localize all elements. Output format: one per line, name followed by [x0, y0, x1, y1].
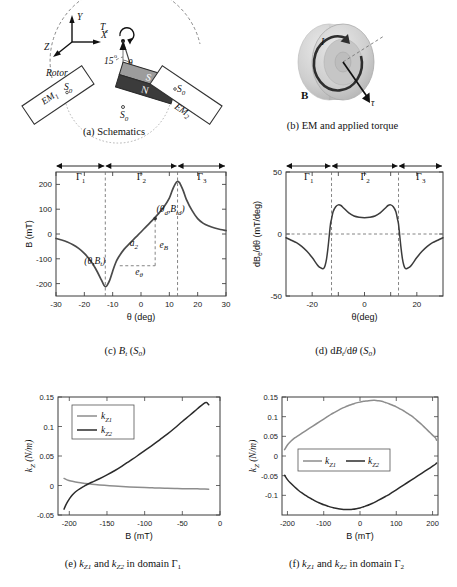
svg-text:0: 0	[50, 482, 54, 491]
svg-text:-150: -150	[99, 519, 114, 528]
svg-text:B (mT): B (mT)	[24, 220, 34, 248]
svg-text:-50: -50	[177, 519, 188, 528]
svg-text:0: 0	[362, 300, 367, 309]
svg-text:-100: -100	[36, 255, 53, 264]
svg-text:Γ2: Γ2	[137, 171, 147, 185]
svg-text:0.05: 0.05	[263, 432, 278, 441]
svg-text:-100: -100	[137, 519, 152, 528]
panel-f-chart: -200-1000100200-0.1-0.0500.050.10.15B (m…	[238, 375, 453, 550]
svg-text:0.15: 0.15	[39, 393, 54, 402]
svg-text:kZ (N/m): kZ (N/m)	[24, 440, 37, 473]
svg-text:-50: -50	[270, 292, 282, 301]
svg-text:B (mT): B (mT)	[125, 531, 153, 541]
svg-text:0: 0	[278, 230, 283, 239]
svg-text:50: 50	[273, 168, 282, 177]
svg-text:20: 20	[412, 300, 421, 309]
svg-text:0.05: 0.05	[39, 452, 54, 461]
svg-text:0: 0	[218, 519, 222, 528]
panel-e-chart: -200-150-100-500-0.0500.050.10.15B (mT)k…	[14, 375, 236, 550]
sensor-bottom-label: S0	[120, 110, 129, 123]
svg-text:-20: -20	[79, 300, 91, 309]
caption-d: (d) dBt/dθ (S0)	[238, 345, 453, 358]
svg-text:-0.1: -0.1	[265, 491, 278, 500]
svg-text:100: 100	[390, 519, 403, 528]
field-label: B	[301, 89, 309, 101]
caption-f: (f) kZ1 and kZ2 in domain Γ2	[236, 558, 457, 571]
svg-text:eB: eB	[159, 240, 168, 253]
svg-text:-200: -200	[62, 519, 77, 528]
svg-text:kZ (N/m): kZ (N/m)	[248, 440, 261, 473]
angle-15-label: 15	[104, 56, 114, 66]
svg-text:0: 0	[274, 452, 278, 461]
svg-text:0.1: 0.1	[44, 423, 54, 432]
svg-text:Γ3: Γ3	[416, 171, 426, 185]
svg-text:200: 200	[426, 519, 439, 528]
svg-text:θ(deg): θ(deg)	[351, 312, 377, 322]
svg-text:-20: -20	[306, 300, 318, 309]
rotor-label: Rotor	[45, 68, 68, 78]
svg-text:0: 0	[358, 519, 362, 528]
svg-text:Γ2: Γ2	[360, 171, 370, 185]
svg-text:10: 10	[165, 300, 174, 309]
torque-label: τ	[371, 98, 375, 108]
caption-c: (c) Bt (S0)	[14, 345, 236, 358]
svg-text:-10: -10	[107, 300, 119, 309]
degree-symbol: o	[114, 53, 117, 59]
svg-text:-200: -200	[280, 519, 295, 528]
panel-a-schematics: Y X Z Tz 15 o θ S N EM1 EM2 Rotor S0 S0 …	[0, 0, 228, 135]
svg-text:-0.05: -0.05	[261, 472, 278, 481]
panel-d-chart: -20020-50050Γ1Γ2Γ3θ(deg)dBe/dθ (mT/deg)	[238, 150, 453, 330]
svg-text:200: 200	[39, 180, 53, 189]
svg-text:(θd,Btd): (θd,Btd)	[157, 204, 185, 217]
axis-label-y: Y	[77, 12, 84, 22]
svg-text:dBe/dθ (mT/deg): dBe/dθ (mT/deg)	[252, 201, 263, 267]
svg-text:-30: -30	[50, 300, 62, 309]
svg-text:20: 20	[193, 300, 202, 309]
svg-text:-200: -200	[36, 280, 53, 289]
caption-b: (b) EM and applied torque	[228, 120, 457, 131]
panel-b-em-torque: I τ B	[228, 0, 457, 135]
svg-text:eθ: eθ	[135, 267, 143, 280]
svg-text:0: 0	[139, 300, 144, 309]
caption-a: (a) Schematics	[0, 126, 228, 137]
svg-text:100: 100	[39, 205, 53, 214]
svg-text:0: 0	[48, 230, 53, 239]
svg-text:0.1: 0.1	[268, 413, 278, 422]
panel-c-chart: -30-20-100102030-200-1000100200Γ1Γ2Γ3(θ,…	[14, 150, 236, 330]
svg-text:Γ3: Γ3	[197, 171, 207, 185]
svg-text:B (mT): B (mT)	[346, 531, 374, 541]
svg-text:a2: a2	[130, 238, 139, 251]
caption-e: (e) kZ1 and kZ2 in domain Γ1	[10, 558, 236, 571]
angle-arc-15	[116, 57, 123, 60]
svg-text:θ (deg): θ (deg)	[127, 312, 156, 322]
svg-text:-0.05: -0.05	[37, 511, 54, 520]
svg-text:-100: -100	[316, 519, 331, 528]
axis-label-z: Z	[44, 42, 50, 52]
svg-text:30: 30	[222, 300, 231, 309]
svg-text:0.15: 0.15	[263, 393, 278, 402]
